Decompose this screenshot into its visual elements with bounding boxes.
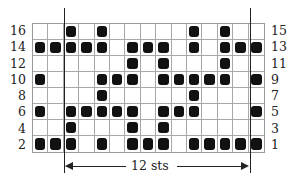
arrow-right-icon bbox=[241, 162, 249, 170]
empty-stitch-cell bbox=[33, 120, 48, 136]
empty-stitch-cell bbox=[64, 56, 79, 72]
filled-stitch-cell bbox=[33, 72, 48, 88]
row-label-left: 12 bbox=[10, 56, 26, 72]
repeat-arrow-left-line bbox=[66, 166, 126, 167]
filled-stitch-cell bbox=[110, 104, 125, 120]
empty-stitch-cell bbox=[48, 56, 63, 72]
empty-stitch-cell bbox=[79, 24, 94, 40]
row-label-right: 5 bbox=[271, 104, 279, 120]
row-label-right: 3 bbox=[271, 121, 279, 137]
filled-stitch-cell bbox=[218, 136, 233, 152]
empty-stitch-cell bbox=[125, 24, 140, 40]
filled-stitch-cell bbox=[187, 88, 202, 104]
filled-stitch-cell bbox=[95, 40, 110, 56]
filled-stitch-cell bbox=[64, 120, 79, 136]
filled-stitch-cell bbox=[95, 104, 110, 120]
empty-stitch-cell bbox=[172, 120, 187, 136]
row-label-right: 9 bbox=[271, 72, 279, 88]
row-label-left: 10 bbox=[10, 72, 26, 88]
empty-stitch-cell bbox=[48, 88, 63, 104]
row-label-right: 7 bbox=[271, 88, 279, 104]
empty-stitch-cell bbox=[95, 120, 110, 136]
row-label-right: 1 bbox=[271, 137, 279, 153]
empty-stitch-cell bbox=[110, 136, 125, 152]
filled-stitch-cell bbox=[125, 56, 140, 72]
arrow-left-icon bbox=[65, 162, 73, 170]
empty-stitch-cell bbox=[95, 56, 110, 72]
filled-stitch-cell bbox=[125, 120, 140, 136]
empty-stitch-cell bbox=[110, 120, 125, 136]
repeat-left-boundary bbox=[64, 8, 65, 173]
empty-stitch-cell bbox=[218, 104, 233, 120]
filled-stitch-cell bbox=[187, 104, 202, 120]
empty-stitch-cell bbox=[202, 24, 217, 40]
row-label-left: 4 bbox=[18, 121, 26, 137]
empty-stitch-cell bbox=[48, 104, 63, 120]
filled-stitch-cell bbox=[156, 56, 171, 72]
filled-stitch-cell bbox=[64, 24, 79, 40]
empty-stitch-cell bbox=[233, 88, 248, 104]
filled-stitch-cell bbox=[48, 40, 63, 56]
filled-stitch-cell bbox=[33, 136, 48, 152]
empty-stitch-cell bbox=[202, 40, 217, 56]
filled-stitch-cell bbox=[187, 24, 202, 40]
filled-stitch-cell bbox=[33, 104, 48, 120]
filled-stitch-cell bbox=[172, 72, 187, 88]
empty-stitch-cell bbox=[48, 24, 63, 40]
filled-stitch-cell bbox=[125, 40, 140, 56]
empty-stitch-cell bbox=[187, 120, 202, 136]
filled-stitch-cell bbox=[156, 104, 171, 120]
empty-stitch-cell bbox=[233, 24, 248, 40]
empty-stitch-cell bbox=[141, 104, 156, 120]
empty-stitch-cell bbox=[233, 56, 248, 72]
filled-stitch-cell bbox=[233, 136, 248, 152]
empty-stitch-cell bbox=[233, 72, 248, 88]
row-label-right: 13 bbox=[271, 39, 287, 55]
repeat-arrow-right-line bbox=[177, 166, 242, 167]
empty-stitch-cell bbox=[79, 72, 94, 88]
row-label-left: 2 bbox=[18, 137, 26, 153]
empty-stitch-cell bbox=[79, 136, 94, 152]
empty-stitch-cell bbox=[172, 136, 187, 152]
empty-stitch-cell bbox=[233, 120, 248, 136]
filled-stitch-cell bbox=[202, 72, 217, 88]
filled-stitch-cell bbox=[79, 104, 94, 120]
empty-stitch-cell bbox=[233, 104, 248, 120]
filled-stitch-cell bbox=[110, 72, 125, 88]
empty-stitch-cell bbox=[33, 24, 48, 40]
empty-stitch-cell bbox=[202, 56, 217, 72]
filled-stitch-cell bbox=[202, 136, 217, 152]
empty-stitch-cell bbox=[64, 88, 79, 104]
filled-stitch-cell bbox=[64, 136, 79, 152]
filled-stitch-cell bbox=[187, 72, 202, 88]
filled-stitch-cell bbox=[172, 104, 187, 120]
filled-stitch-cell bbox=[33, 40, 48, 56]
empty-stitch-cell bbox=[202, 120, 217, 136]
empty-stitch-cell bbox=[218, 120, 233, 136]
empty-stitch-cell bbox=[125, 88, 140, 104]
empty-stitch-cell bbox=[48, 120, 63, 136]
empty-stitch-cell bbox=[33, 88, 48, 104]
filled-stitch-cell bbox=[64, 40, 79, 56]
empty-stitch-cell bbox=[202, 88, 217, 104]
filled-stitch-cell bbox=[187, 40, 202, 56]
repeat-right-boundary bbox=[250, 8, 251, 173]
filled-stitch-cell bbox=[156, 72, 171, 88]
row-label-right: 15 bbox=[271, 23, 287, 39]
repeat-label: 12 sts bbox=[131, 158, 169, 173]
filled-stitch-cell bbox=[156, 40, 171, 56]
empty-stitch-cell bbox=[172, 24, 187, 40]
filled-stitch-cell bbox=[218, 24, 233, 40]
filled-stitch-cell bbox=[141, 136, 156, 152]
empty-stitch-cell bbox=[172, 88, 187, 104]
filled-stitch-cell bbox=[233, 40, 248, 56]
filled-stitch-cell bbox=[64, 104, 79, 120]
empty-stitch-cell bbox=[187, 56, 202, 72]
row-label-left: 16 bbox=[10, 23, 26, 39]
filled-stitch-cell bbox=[156, 120, 171, 136]
knitting-chart-grid bbox=[32, 23, 265, 153]
empty-stitch-cell bbox=[141, 88, 156, 104]
filled-stitch-cell bbox=[48, 136, 63, 152]
empty-stitch-cell bbox=[48, 72, 63, 88]
empty-stitch-cell bbox=[110, 40, 125, 56]
